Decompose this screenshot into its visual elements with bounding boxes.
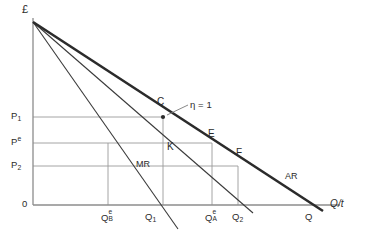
x-tick-qeb-base: Q: [101, 212, 109, 223]
y-tick-p1: P1: [11, 111, 21, 121]
x-tick-q1-base: Q: [145, 211, 153, 222]
y-tick-pe: Pe: [11, 137, 21, 147]
label-mr-curve: MR: [136, 160, 150, 169]
label-point-f: F: [236, 148, 242, 158]
origin-label: 0: [22, 199, 27, 209]
x-tick-q2: Q2: [232, 212, 243, 222]
label-elasticity-unity: η = 1: [190, 100, 212, 110]
x-tick-qeb: QeB: [101, 212, 114, 223]
ar-curve: [33, 22, 323, 211]
label-point-e: E: [208, 129, 215, 139]
chart-canvas: [0, 0, 371, 245]
marker-point-c: [161, 115, 165, 119]
label-point-k: K: [167, 142, 174, 152]
x-tick-q1: Q1: [145, 212, 156, 222]
label-ar-curve: AR: [285, 172, 298, 181]
mr-curve: [33, 22, 178, 229]
x-tick-qea: QeA: [205, 212, 218, 223]
steep-demand-curve: [33, 22, 253, 213]
y-axis-title: £: [22, 4, 28, 15]
x-tick-q1-sub: 1: [153, 216, 157, 223]
x-tick-q2-base: Q: [232, 211, 240, 222]
y-tick-p2-sub: 2: [17, 164, 21, 171]
economics-demand-diagram: £ Q/t 0 P1 Pe P2 QeB Q1 QeA Q2 Q C K E F…: [0, 0, 371, 245]
y-tick-p2: P2: [11, 160, 21, 170]
x-tick-qea-base: Q: [205, 212, 213, 223]
label-point-c: C: [157, 97, 164, 107]
x-tick-qea-scripts: eA: [213, 212, 218, 221]
x-tick-qeb-sub: B: [109, 216, 114, 223]
x-tick-qeb-scripts: eB: [109, 212, 114, 221]
y-tick-p1-sub: 1: [17, 115, 21, 122]
x-tick-q-intercept: Q: [305, 212, 313, 222]
x-axis-title: Q/t: [330, 199, 344, 209]
x-tick-q2-sub: 2: [240, 216, 244, 223]
x-tick-qea-sub: A: [213, 216, 218, 223]
y-tick-pe-sup: e: [17, 135, 21, 142]
